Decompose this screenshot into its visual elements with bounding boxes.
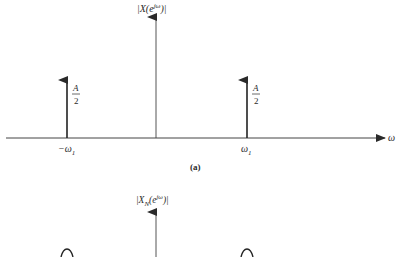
impulse-left-amplitude-den: 2 xyxy=(74,96,79,106)
mainlobe-right xyxy=(241,249,253,257)
figure-a: |X(ejω)| ω A 2 −ω1 A 2 ω1 (a) xyxy=(6,2,395,172)
figure-a-caption: (a) xyxy=(190,162,201,172)
figure-a-xlabel: ω xyxy=(388,132,395,143)
impulse-right-amplitude-num: A xyxy=(252,83,259,93)
spectrum-diagram: |X(ejω)| ω A 2 −ω1 A 2 ω1 (a) |XN(ejω)| xyxy=(0,0,396,257)
figure-b: |XN(ejω)| xyxy=(61,193,253,257)
mainlobe-left xyxy=(61,249,73,257)
impulse-left: A 2 −ω1 xyxy=(58,80,80,157)
figure-b-ylabel: |XN(ejω)| xyxy=(136,193,169,208)
impulse-right-amplitude-den: 2 xyxy=(254,96,259,106)
impulse-right: A 2 ω1 xyxy=(241,80,260,157)
impulse-left-amplitude-num: A xyxy=(72,83,79,93)
figure-a-ylabel: |X(ejω)| xyxy=(137,2,167,15)
impulse-right-position-label: ω1 xyxy=(241,143,252,157)
impulse-left-position-label: −ω1 xyxy=(58,143,75,157)
